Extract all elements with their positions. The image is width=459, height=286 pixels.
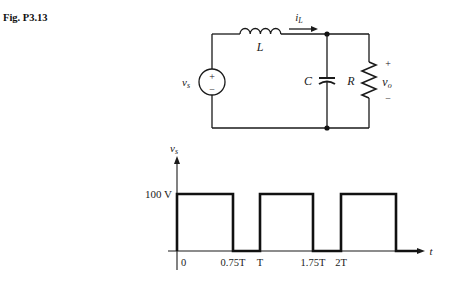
figure-canvas: Fig. P3.13 + − vs L iL C R + vo bbox=[0, 0, 459, 286]
resistor-zigzag-icon bbox=[362, 62, 376, 98]
output-label-sub: o bbox=[388, 81, 392, 90]
capacitor-label: C bbox=[304, 74, 313, 88]
resistor-label: R bbox=[346, 74, 355, 88]
circuit-diagram: + − vs L iL C R + vo − bbox=[182, 11, 392, 131]
waveform-plot: vs t 100 V 0 0.75T T 1.75T 2T bbox=[145, 142, 433, 270]
x-axis-label: t bbox=[429, 245, 433, 257]
x-axis-arrow-icon bbox=[417, 248, 425, 254]
inductor-coil-icon bbox=[240, 28, 281, 34]
y-axis-arrow-icon bbox=[174, 156, 180, 164]
y-axis-label-sub: s bbox=[175, 147, 178, 156]
x-tick-labels: 0 0.75T T 1.75T 2T bbox=[181, 257, 347, 268]
source-label-sub: s bbox=[187, 81, 190, 90]
output-label: vo bbox=[382, 75, 391, 90]
output-minus: − bbox=[385, 93, 391, 104]
source-plus: + bbox=[209, 71, 215, 82]
x-tick-label: T bbox=[257, 257, 264, 268]
x-tick-label: 1.75T bbox=[301, 257, 326, 268]
source-minus: − bbox=[209, 84, 215, 95]
waveform-line bbox=[177, 194, 418, 251]
current-label-sub: L bbox=[297, 16, 303, 25]
figure-label: Fig. P3.13 bbox=[3, 12, 48, 23]
inductor-label: L bbox=[256, 40, 264, 54]
x-tick-label: 2T bbox=[335, 257, 347, 268]
current-label: iL bbox=[295, 11, 303, 25]
current-arrow-icon bbox=[311, 26, 318, 32]
source-label: vs bbox=[182, 76, 190, 90]
x-tick-label: 0.75T bbox=[221, 257, 246, 268]
y-level-label: 100 V bbox=[145, 188, 172, 200]
x-tick-label: 0 bbox=[181, 257, 186, 268]
y-axis-label: vs bbox=[170, 142, 178, 156]
output-plus: + bbox=[385, 58, 391, 69]
